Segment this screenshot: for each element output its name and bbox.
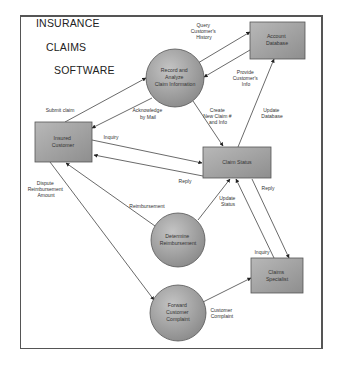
flow-customer-complaint bbox=[203, 278, 251, 302]
submit-claim-label: Submit claim bbox=[46, 107, 75, 113]
provide-info-label: Provide Customer's Info bbox=[233, 69, 260, 87]
query-history-label: Query Customer's History bbox=[191, 22, 218, 40]
claims-specialist-label: Claims Specialist bbox=[266, 269, 289, 282]
forward-complaint-label: Forward Customer Complaint bbox=[166, 302, 190, 322]
customer-complaint-label: Customer Complaint bbox=[210, 307, 233, 319]
dispute-label: Dispute Reimbursement Amount bbox=[28, 180, 65, 198]
data-flow-diagram: Account Database Record and Analyze Clai… bbox=[0, 0, 339, 368]
update-database-label: Update Database bbox=[261, 107, 283, 119]
reply-specialist-label: Reply bbox=[262, 185, 275, 191]
flow-submit-claim bbox=[65, 78, 146, 122]
inquiry-specialist-label: Inquiry bbox=[254, 249, 270, 255]
account-database-label: Account Database bbox=[266, 33, 288, 46]
inquiry-customer-label: Inquiry bbox=[103, 134, 119, 140]
flow-reimbursement bbox=[66, 163, 155, 226]
flow-inquiry-customer bbox=[92, 140, 202, 163]
acknowledge-label: Acknowledge by Mail bbox=[132, 107, 163, 120]
claim-status-label: Claim Status bbox=[222, 159, 252, 165]
update-status-label: Update Status bbox=[219, 195, 237, 207]
flow-dispute bbox=[50, 162, 154, 300]
reply-customer-label: Reply bbox=[179, 178, 192, 184]
insured-customer-label: Insured Customer bbox=[52, 135, 75, 148]
flow-reply-customer bbox=[94, 155, 203, 176]
reimbursement-label: Reimbursement bbox=[129, 203, 165, 209]
